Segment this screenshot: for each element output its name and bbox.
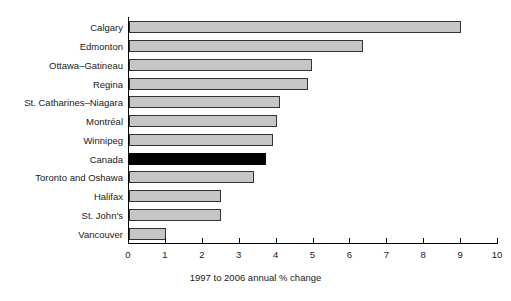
bar — [129, 134, 273, 146]
x-axis-title: 1997 to 2006 annual % change — [0, 272, 511, 283]
bar-row: Toronto and Oshawa — [0, 168, 511, 187]
bar — [129, 228, 166, 240]
bar — [129, 209, 221, 221]
category-label: Calgary — [90, 22, 123, 33]
category-label: Edmonton — [80, 41, 123, 52]
bar-chart: CalgaryEdmontonOttawa–GatineauReginaSt. … — [0, 0, 511, 301]
category-label: St. John's — [82, 209, 123, 220]
bar-row: St. John's — [0, 206, 511, 225]
x-axis-line — [128, 243, 498, 244]
bar-row: St. Catharines–Niagara — [0, 93, 511, 112]
bar — [129, 115, 277, 127]
bar-row: Winnipeg — [0, 131, 511, 150]
category-label: Ottawa–Gatineau — [49, 59, 123, 70]
tick-label: 5 — [310, 249, 315, 260]
bar — [129, 96, 280, 108]
bar — [129, 190, 221, 202]
tick-label: 6 — [347, 249, 352, 260]
bar — [129, 40, 363, 52]
bar-row: Ottawa–Gatineau — [0, 56, 511, 75]
bar-row: Regina — [0, 74, 511, 93]
category-label: Vancouver — [78, 228, 123, 239]
bar-row: Vancouver — [0, 224, 511, 243]
bar-row: Edmonton — [0, 37, 511, 56]
tick-label: 9 — [457, 249, 462, 260]
bar-row: Calgary — [0, 18, 511, 37]
category-label: Halifax — [94, 191, 123, 202]
category-label: Winnipeg — [83, 134, 123, 145]
bar — [129, 21, 461, 33]
bar-row: Montréal — [0, 112, 511, 131]
tick-label: 10 — [492, 249, 503, 260]
category-label: Montréal — [86, 116, 123, 127]
bar — [129, 171, 254, 183]
tick-label: 2 — [199, 249, 204, 260]
tick-label: 8 — [421, 249, 426, 260]
tick-label: 3 — [236, 249, 241, 260]
tick-label: 0 — [125, 249, 130, 260]
bar-row: Canada — [0, 149, 511, 168]
bar — [129, 78, 308, 90]
category-label: St. Catharines–Niagara — [24, 97, 123, 108]
tick-label: 1 — [162, 249, 167, 260]
bar — [129, 153, 266, 165]
category-label: Toronto and Oshawa — [35, 172, 123, 183]
category-label: Regina — [93, 78, 123, 89]
bar-row: Halifax — [0, 187, 511, 206]
bar-rows-container: CalgaryEdmontonOttawa–GatineauReginaSt. … — [0, 18, 511, 243]
bar — [129, 59, 312, 71]
tick-label: 4 — [273, 249, 278, 260]
tick-label: 7 — [384, 249, 389, 260]
category-label: Canada — [90, 153, 123, 164]
